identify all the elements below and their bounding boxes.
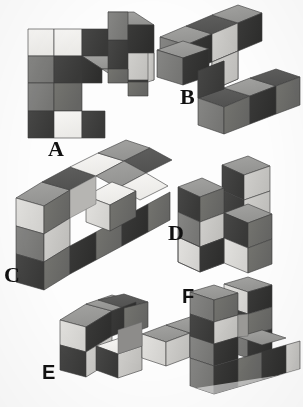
figure-label-d: D [168,222,184,244]
figure-label-c: C [4,264,20,286]
cube-figures-canvas [0,0,303,407]
figure-label-f: F [182,286,194,306]
figure-label-a: A [48,138,64,160]
cube-figures-image: A B C D E F [0,0,303,407]
figure-label-b: B [180,86,195,108]
figure-label-e: E [42,362,55,382]
